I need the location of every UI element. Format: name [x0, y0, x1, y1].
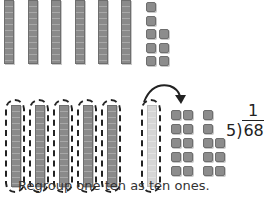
one-cube — [171, 124, 181, 134]
one-cube — [203, 152, 213, 162]
ten-rod — [83, 105, 93, 187]
one-cube — [159, 43, 169, 53]
ten-rod — [121, 0, 131, 64]
ten-rod — [28, 0, 38, 64]
one-cube — [215, 166, 225, 176]
one-cube — [171, 138, 181, 148]
one-cube — [146, 29, 156, 39]
one-cube — [171, 166, 181, 176]
one-cube — [215, 138, 225, 148]
one-cube — [159, 56, 169, 66]
one-cube — [183, 166, 193, 176]
one-cube — [183, 138, 193, 148]
one-cube — [146, 2, 156, 12]
one-cube — [146, 56, 156, 66]
caption: Regroup one ten as ten ones. — [18, 178, 210, 193]
one-cube — [183, 152, 193, 162]
one-cube — [183, 110, 193, 120]
ten-rod — [35, 105, 45, 187]
one-cube — [203, 138, 213, 148]
division-bracket: ) — [236, 120, 242, 141]
one-cube — [215, 152, 225, 162]
ten-rod — [98, 0, 108, 64]
one-cube — [171, 152, 181, 162]
one-cube — [159, 29, 169, 39]
one-cube — [203, 124, 213, 134]
dividend: 68 — [242, 120, 263, 140]
regrouped-ten-rod — [147, 105, 157, 187]
ten-rod — [11, 105, 21, 187]
quotient: 1 — [248, 101, 258, 120]
ten-rod — [75, 0, 85, 64]
one-cube — [183, 124, 193, 134]
one-cube — [203, 110, 213, 120]
one-cube — [146, 16, 156, 26]
curved-arrow-icon — [140, 82, 190, 108]
divisor: 5 — [226, 121, 236, 140]
one-cube — [203, 166, 213, 176]
division-expression: 5)68 — [226, 121, 264, 140]
one-cube — [146, 43, 156, 53]
ten-rod — [4, 0, 14, 64]
one-cube — [171, 110, 181, 120]
ten-rod — [51, 0, 61, 64]
ten-rod — [59, 105, 69, 187]
ten-rod — [107, 105, 117, 187]
